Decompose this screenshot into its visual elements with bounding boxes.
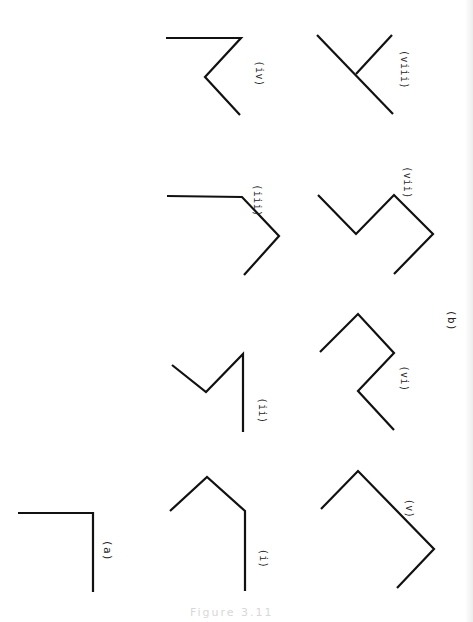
panel-vi-path (320, 314, 394, 430)
panel-i (170, 477, 245, 591)
panel-ii-path (172, 354, 243, 432)
page-edge-shadow (465, 0, 473, 622)
panel-vii-path (318, 195, 433, 274)
panel-v (321, 471, 434, 588)
panel-viii-branch (356, 35, 392, 74)
figure-canvas: (i)(ii)(iii)(iv)(v)(vi)(vii)(viii)(a)(b)… (0, 0, 473, 622)
panel-label-iv: (iv) (254, 60, 265, 86)
panel-label-v: (v) (404, 498, 415, 518)
panel-a-path (18, 513, 93, 592)
line-drawings (0, 0, 473, 622)
panel-label-viii: (viii) (399, 49, 410, 88)
panel-iv-path (166, 38, 241, 115)
panel-vii (318, 195, 433, 274)
panel-label-i: (i) (258, 548, 269, 568)
panel-a (18, 513, 93, 592)
panel-iv (166, 38, 241, 115)
panel-ii (172, 354, 243, 432)
panel-v-path (321, 471, 434, 588)
figure-caption: Figure 3.11 (190, 606, 274, 619)
panel-i-path (170, 477, 245, 591)
panel-vi (320, 314, 394, 430)
group-label-a: (a) (101, 539, 114, 560)
group-label-b: (b) (445, 309, 458, 330)
panel-viii (317, 35, 393, 114)
panel-label-vii: (vii) (401, 166, 412, 199)
panel-label-ii: (ii) (257, 397, 268, 423)
panel-label-vi: (vi) (399, 365, 410, 391)
panel-label-iii: (iii) (251, 184, 262, 217)
